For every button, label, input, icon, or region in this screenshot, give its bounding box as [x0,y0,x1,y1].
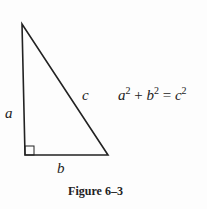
right-triangle [0,0,207,209]
right-angle-marker [25,146,34,155]
eq-plus: + [131,87,147,103]
caption-text: Figure 6–3 [68,184,123,198]
side-label-b: b [57,161,65,176]
eq-term-b: b [146,87,154,103]
figure-caption: Figure 6–3 [0,184,207,199]
eq-term-c: c [175,87,182,103]
eq-equals: = [159,87,175,103]
side-label-a: a [5,106,13,121]
eq-exp-c: 2 [182,85,187,96]
pythagorean-equation: a2 + b2 = c2 [118,86,187,103]
eq-term-a: a [118,87,126,103]
side-label-c: c [82,88,89,103]
triangle-shape [22,24,108,155]
